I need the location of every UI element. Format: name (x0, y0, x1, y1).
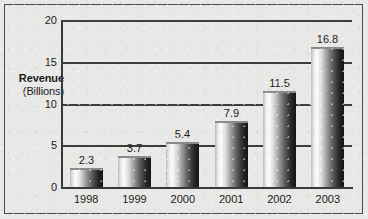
x-tick-label-2000: 2000 (159, 193, 207, 205)
y-tick-label-20: 20 (33, 14, 57, 26)
bar-value-label-1998: 2.3 (64, 154, 109, 166)
bar-1998 (70, 169, 103, 188)
bar-top-cap (166, 142, 199, 144)
y-tick-label-10: 10 (33, 98, 57, 110)
bar-top-cap (118, 156, 151, 158)
bar-top-cap (70, 168, 103, 170)
y-tick-label-0: 0 (33, 181, 57, 193)
bar-2003 (311, 48, 344, 188)
gridline-y-15 (62, 62, 352, 64)
x-tick-label-2001: 2001 (207, 193, 255, 205)
bar-1999 (118, 157, 151, 188)
bar-value-label-2000: 5.4 (160, 128, 205, 140)
x-axis-line (61, 187, 353, 189)
y-axis-tick-labels: 05101520 (33, 21, 57, 188)
bar-2001 (215, 122, 248, 188)
y-tick-label-5: 5 (33, 139, 57, 151)
bar-value-label-2003: 16.8 (305, 33, 350, 45)
x-tick-label-1998: 1998 (62, 193, 110, 205)
x-tick-label-2002: 2002 (255, 193, 303, 205)
bar-value-label-2001: 7.9 (209, 107, 254, 119)
x-tick-label-2003: 2003 (304, 193, 352, 205)
bar-2002 (263, 92, 296, 188)
gridline-y-5 (62, 145, 352, 147)
bar-value-label-1999: 3.7 (112, 142, 157, 154)
bar-top-cap (215, 121, 248, 123)
gridline-y-20 (62, 20, 352, 22)
gridline-y-10 (62, 104, 352, 106)
chart-figure: Revenue (Billions) 05101520 2.319983.719… (0, 0, 368, 219)
y-tick-label-15: 15 (33, 56, 57, 68)
bar-top-cap (263, 91, 296, 93)
bar-top-cap (311, 47, 344, 49)
bar-2000 (166, 143, 199, 188)
y-axis-line (61, 20, 63, 189)
x-tick-label-1999: 1999 (110, 193, 158, 205)
bar-value-label-2002: 11.5 (257, 77, 302, 89)
